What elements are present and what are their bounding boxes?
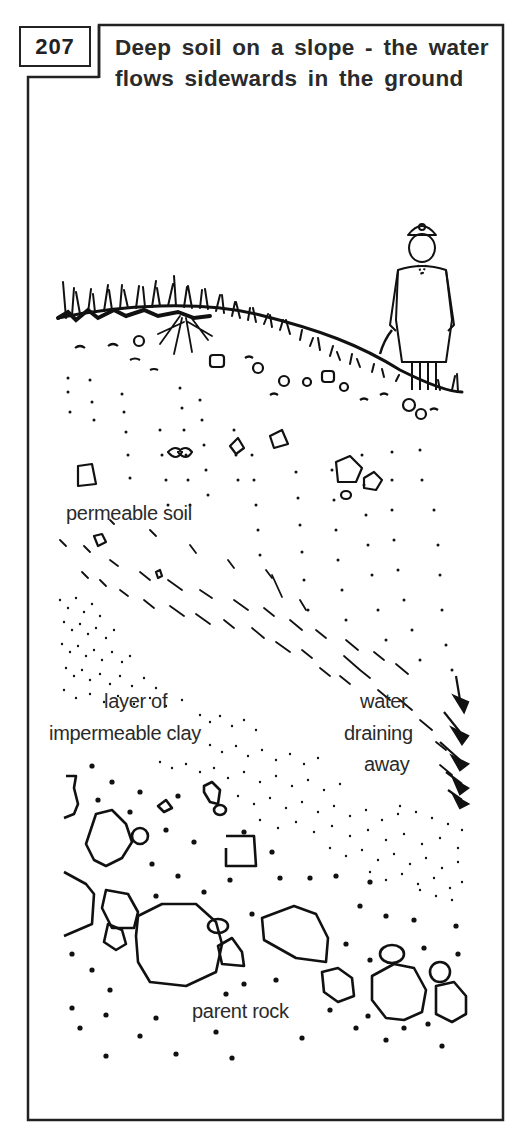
soil-slope-figure: 207 Deep soil on a slope - the water flo…: [0, 0, 518, 1126]
figure-number: 207: [19, 26, 91, 67]
label-clay-line2: impermeable clay: [49, 722, 201, 745]
label-permeable-soil: permeable soil: [66, 502, 192, 525]
label-water-line1: water: [360, 690, 407, 713]
label-water-line3: away: [364, 753, 410, 776]
label-clay-line1: layer of: [104, 690, 167, 713]
label-parent-rock: parent rock: [192, 1000, 289, 1023]
illustration: [0, 0, 518, 1126]
label-water-line2: draining: [344, 722, 413, 745]
grass-surface: [58, 276, 462, 392]
parent-rock-boulders: [64, 776, 466, 1022]
figure-title: Deep soil on a slope - the water flows s…: [115, 32, 495, 94]
clay-stipple: [59, 597, 463, 901]
drainage-arrows: [440, 676, 468, 808]
figure-frame: [28, 25, 503, 1120]
